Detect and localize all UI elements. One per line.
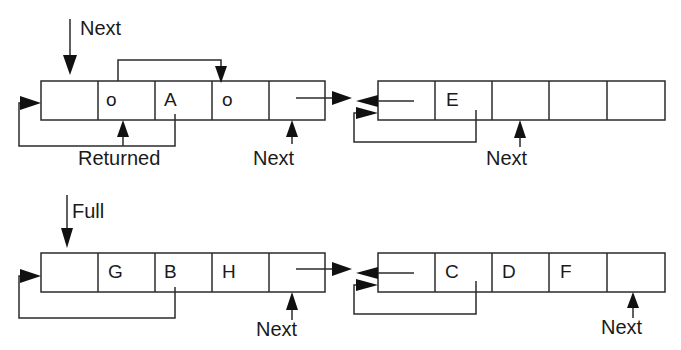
arrowhead-next-block2-right: [332, 262, 352, 276]
diagram-lines: [0, 0, 681, 350]
arrowhead-loop-right: [20, 96, 41, 110]
arrowhead-next4-up: [627, 292, 639, 308]
arrowhead-next-up: [286, 120, 298, 137]
full-pointer-label: Full: [72, 200, 104, 222]
arrowhead-loop3-right: [20, 269, 41, 283]
arrowhead-loop2-right: [356, 107, 378, 119]
arrowhead-next3-up: [286, 292, 298, 310]
next-label-bottom-block1: Next: [256, 318, 297, 340]
arrowhead-next2-up: [514, 120, 526, 138]
arrowhead-full-down: [61, 228, 73, 248]
next-pointer-label: Next: [80, 17, 121, 39]
block-bottom-1-outline: [41, 253, 325, 292]
block-top-2-outline: [378, 81, 665, 120]
next-label-top-block1: Next: [253, 147, 294, 169]
block-top-1-outline: [41, 81, 325, 120]
arrowhead-next-down: [63, 55, 77, 75]
block-bottom-2-outline: [378, 253, 665, 292]
arrowhead-loop4-right: [356, 279, 378, 291]
arrowhead-back2-left: [356, 267, 378, 279]
arrowhead-next-block-right: [332, 91, 352, 105]
next-label-top-block2: Next: [486, 147, 527, 169]
arrowhead-back-left: [356, 95, 378, 107]
returned-label: Returned: [78, 147, 160, 169]
arrowhead-returned-up: [117, 120, 129, 137]
next-label-bottom-block2: Next: [601, 316, 642, 338]
